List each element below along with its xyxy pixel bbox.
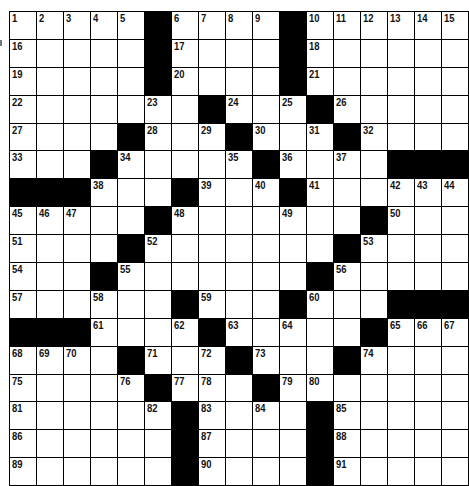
grid-cell[interactable]: [226, 402, 252, 429]
grid-cell[interactable]: [226, 235, 252, 262]
grid-cell[interactable]: 51: [10, 235, 36, 262]
grid-cell[interactable]: 35: [226, 151, 252, 178]
grid-cell[interactable]: [172, 347, 198, 374]
grid-cell[interactable]: [442, 68, 468, 95]
grid-cell[interactable]: [91, 402, 117, 429]
grid-cell[interactable]: [388, 96, 414, 123]
grid-cell[interactable]: 21: [307, 68, 333, 95]
grid-cell[interactable]: [442, 458, 468, 485]
grid-cell[interactable]: 43: [415, 179, 441, 206]
grid-cell[interactable]: [145, 263, 171, 290]
grid-cell[interactable]: 80: [307, 375, 333, 402]
grid-cell[interactable]: [388, 375, 414, 402]
grid-cell[interactable]: 85: [334, 402, 360, 429]
grid-cell[interactable]: 87: [199, 430, 225, 457]
grid-cell[interactable]: [253, 291, 279, 318]
grid-cell[interactable]: [118, 207, 144, 234]
grid-cell[interactable]: [307, 151, 333, 178]
grid-cell[interactable]: 48: [172, 207, 198, 234]
grid-cell[interactable]: 2: [37, 12, 63, 39]
grid-cell[interactable]: [253, 235, 279, 262]
grid-cell[interactable]: 74: [361, 347, 387, 374]
grid-cell[interactable]: 47: [64, 207, 90, 234]
grid-cell[interactable]: [415, 124, 441, 151]
grid-cell[interactable]: 41: [307, 179, 333, 206]
grid-cell[interactable]: 13: [388, 12, 414, 39]
grid-cell[interactable]: [64, 96, 90, 123]
grid-cell[interactable]: 38: [91, 179, 117, 206]
grid-cell[interactable]: 25: [280, 96, 306, 123]
grid-cell[interactable]: [37, 430, 63, 457]
grid-cell[interactable]: 4: [91, 12, 117, 39]
grid-cell[interactable]: 34: [118, 151, 144, 178]
grid-cell[interactable]: 69: [37, 347, 63, 374]
grid-cell[interactable]: 22: [10, 96, 36, 123]
grid-cell[interactable]: [37, 96, 63, 123]
grid-cell[interactable]: 63: [226, 319, 252, 346]
grid-cell[interactable]: [91, 347, 117, 374]
grid-cell[interactable]: [226, 263, 252, 290]
grid-cell[interactable]: [334, 207, 360, 234]
grid-cell[interactable]: [442, 430, 468, 457]
grid-cell[interactable]: [172, 96, 198, 123]
grid-cell[interactable]: [361, 263, 387, 290]
grid-cell[interactable]: 54: [10, 263, 36, 290]
grid-cell[interactable]: [253, 263, 279, 290]
grid-cell[interactable]: 86: [10, 430, 36, 457]
grid-cell[interactable]: 89: [10, 458, 36, 485]
grid-cell[interactable]: [280, 402, 306, 429]
grid-cell[interactable]: [64, 40, 90, 67]
grid-cell[interactable]: [64, 291, 90, 318]
grid-cell[interactable]: 70: [64, 347, 90, 374]
grid-cell[interactable]: [145, 458, 171, 485]
grid-cell[interactable]: [388, 40, 414, 67]
grid-cell[interactable]: [415, 263, 441, 290]
grid-cell[interactable]: 42: [388, 179, 414, 206]
grid-cell[interactable]: 24: [226, 96, 252, 123]
grid-cell[interactable]: [361, 40, 387, 67]
grid-cell[interactable]: [37, 375, 63, 402]
grid-cell[interactable]: [37, 291, 63, 318]
grid-cell[interactable]: 60: [307, 291, 333, 318]
grid-cell[interactable]: [37, 235, 63, 262]
grid-cell[interactable]: 76: [118, 375, 144, 402]
grid-cell[interactable]: 23: [145, 96, 171, 123]
grid-cell[interactable]: [415, 40, 441, 67]
grid-cell[interactable]: [253, 430, 279, 457]
grid-cell[interactable]: [226, 291, 252, 318]
grid-cell[interactable]: [118, 430, 144, 457]
grid-cell[interactable]: [226, 458, 252, 485]
grid-cell[interactable]: [64, 430, 90, 457]
grid-cell[interactable]: 27: [10, 124, 36, 151]
grid-cell[interactable]: [37, 68, 63, 95]
grid-cell[interactable]: [442, 402, 468, 429]
grid-cell[interactable]: [118, 68, 144, 95]
grid-cell[interactable]: 11: [334, 12, 360, 39]
grid-cell[interactable]: 40: [253, 179, 279, 206]
grid-cell[interactable]: 91: [334, 458, 360, 485]
grid-cell[interactable]: 6: [172, 12, 198, 39]
grid-cell[interactable]: [307, 207, 333, 234]
grid-cell[interactable]: 28: [145, 124, 171, 151]
grid-cell[interactable]: [334, 319, 360, 346]
grid-cell[interactable]: [145, 151, 171, 178]
grid-cell[interactable]: [145, 291, 171, 318]
grid-cell[interactable]: [280, 347, 306, 374]
grid-cell[interactable]: [442, 375, 468, 402]
grid-cell[interactable]: 46: [37, 207, 63, 234]
grid-cell[interactable]: 71: [145, 347, 171, 374]
grid-cell[interactable]: [172, 124, 198, 151]
grid-cell[interactable]: 57: [10, 291, 36, 318]
grid-cell[interactable]: [91, 458, 117, 485]
grid-cell[interactable]: 67: [442, 319, 468, 346]
grid-cell[interactable]: 78: [199, 375, 225, 402]
grid-cell[interactable]: 16: [10, 40, 36, 67]
grid-cell[interactable]: 29: [199, 124, 225, 151]
grid-cell[interactable]: [388, 430, 414, 457]
grid-cell[interactable]: 55: [118, 263, 144, 290]
grid-cell[interactable]: [361, 291, 387, 318]
grid-cell[interactable]: [145, 179, 171, 206]
grid-cell[interactable]: [199, 151, 225, 178]
grid-cell[interactable]: [37, 402, 63, 429]
grid-cell[interactable]: 14: [415, 12, 441, 39]
